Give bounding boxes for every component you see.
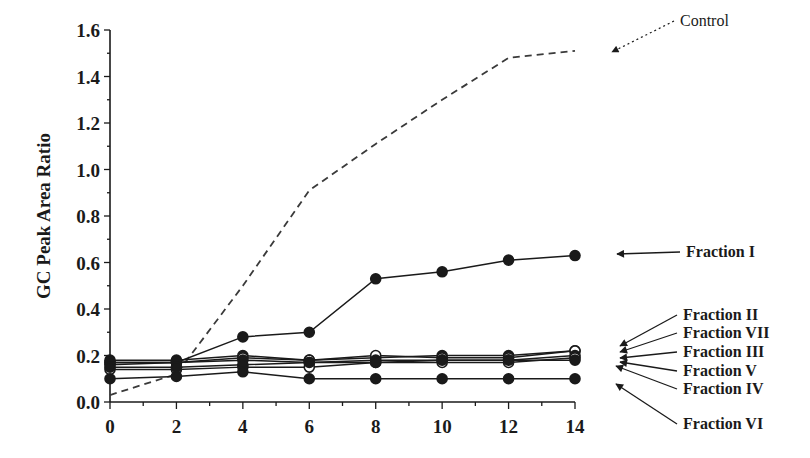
x-tick-label: 2	[172, 416, 182, 437]
y-tick-label: 0.8	[76, 206, 100, 227]
series-label: Fraction IV	[683, 380, 764, 397]
arrow-icon	[617, 252, 680, 254]
y-tick-label: 1.4	[76, 67, 100, 88]
x-tick-label: 12	[499, 416, 518, 437]
filled-circle-marker	[570, 374, 580, 384]
annotation-fraction-i: Fraction I	[617, 243, 755, 260]
filled-circle-marker	[504, 355, 514, 365]
y-tick-label: 0.6	[76, 253, 100, 274]
y-tick-label: 0.2	[76, 346, 100, 367]
x-tick-label: 14	[566, 416, 586, 437]
filled-circle-marker	[304, 327, 314, 337]
series-label: Fraction VI	[683, 415, 763, 432]
annotation-fraction-v: Fraction V	[620, 362, 757, 379]
series-label: Fraction VII	[683, 324, 769, 341]
x-tick-label: 10	[433, 416, 452, 437]
arrow-icon	[620, 352, 677, 358]
y-tick-label: 1.0	[76, 160, 100, 181]
filled-circle-marker	[570, 251, 580, 261]
annotation-control: Control	[612, 12, 729, 52]
filled-circle-marker	[238, 332, 248, 342]
filled-circle-marker	[371, 274, 381, 284]
x-tick-label: 6	[305, 416, 315, 437]
filled-circle-marker	[437, 355, 447, 365]
series-label: Fraction V	[683, 362, 757, 379]
filled-circle-marker	[504, 374, 514, 384]
series-layer	[105, 51, 580, 395]
series-label: Fraction II	[683, 306, 758, 323]
filled-circle-marker	[504, 255, 514, 265]
arrow-icon	[620, 333, 677, 352]
series-label: Fraction III	[683, 343, 764, 360]
annotation-fraction-iii: Fraction III	[620, 343, 764, 360]
annotation-layer: ControlFraction IFraction IIFraction VII…	[612, 12, 769, 432]
series-control	[110, 51, 575, 395]
series-line	[110, 256, 575, 365]
filled-circle-marker	[437, 374, 447, 384]
y-tick-label: 1.6	[76, 20, 100, 41]
arrow-icon	[612, 21, 674, 52]
filled-circle-marker	[371, 357, 381, 367]
arrow-icon	[620, 315, 677, 346]
series-label: Control	[680, 12, 729, 29]
series-label: Fraction I	[686, 243, 755, 260]
filled-circle-marker	[304, 374, 314, 384]
y-tick-label: 1.2	[76, 113, 100, 134]
filled-circle-marker	[171, 371, 181, 381]
filled-circle-marker	[371, 374, 381, 384]
filled-circle-marker	[570, 355, 580, 365]
y-tick-label: 0.0	[76, 392, 100, 413]
line-chart: 0.00.20.40.60.81.01.21.41.602468101214 C…	[0, 0, 810, 458]
y-tick-label: 0.4	[76, 299, 100, 320]
filled-circle-marker	[105, 362, 115, 372]
filled-circle-marker	[238, 367, 248, 377]
arrow-icon	[620, 362, 677, 371]
x-tick-label: 0	[105, 416, 115, 437]
x-tick-label: 4	[238, 416, 248, 437]
x-tick-label: 8	[371, 416, 381, 437]
filled-circle-marker	[304, 357, 314, 367]
series-line	[110, 51, 575, 395]
y-axis-title: GC Peak Area Ratio	[33, 133, 54, 299]
filled-circle-marker	[437, 267, 447, 277]
arrow-icon	[616, 384, 677, 424]
filled-circle-marker	[105, 374, 115, 384]
